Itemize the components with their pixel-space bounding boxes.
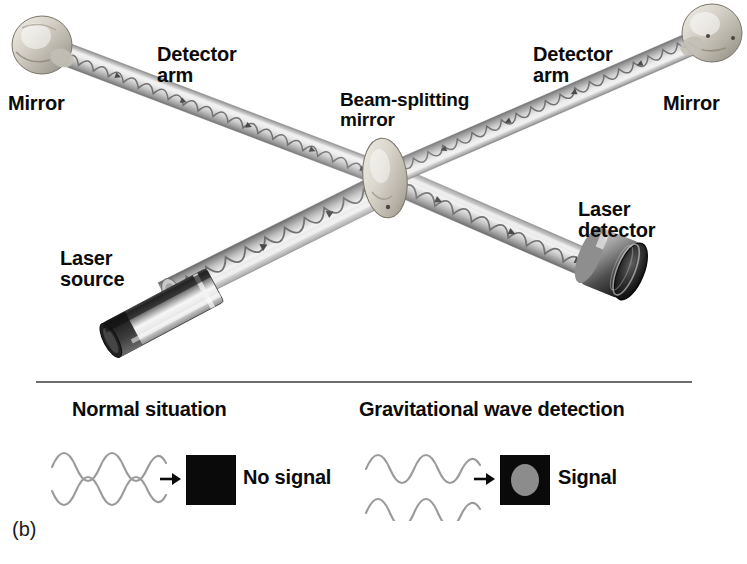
case-normal-result-label: No signal xyxy=(243,467,331,488)
case-gw-title: Gravitational wave detection xyxy=(359,399,625,420)
case-normal-indicator xyxy=(186,455,236,505)
signal-spot-icon xyxy=(511,464,539,496)
detector-arm-left-label: Detector arm xyxy=(157,44,237,87)
mirror-left-label: Mirror xyxy=(8,93,65,114)
case-gw-result-label: Signal xyxy=(558,467,617,488)
case-normal-wave-pair xyxy=(48,437,178,521)
apparatus-svg xyxy=(0,0,747,380)
comparison-panel: Normal situation No signal Gravitational… xyxy=(0,383,747,564)
case-gw-wave-pair xyxy=(362,437,492,521)
mirror-right-label: Mirror xyxy=(663,93,720,114)
case-normal-title: Normal situation xyxy=(72,399,227,420)
figure-panel-b: Mirror Detector arm Beam-splitting mirro… xyxy=(0,0,747,564)
beam-splitting-mirror-label: Beam-splitting mirror xyxy=(340,90,469,131)
figure-caption-letter: (b) xyxy=(12,518,36,541)
interferometer-apparatus-illustration: Mirror Detector arm Beam-splitting mirro… xyxy=(0,0,747,380)
laser-source-label: Laser source xyxy=(60,248,124,291)
laser-detector-label: Laser detector xyxy=(578,199,655,242)
detector-arm-right-label: Detector arm xyxy=(533,44,613,87)
case-normal-arrow-icon xyxy=(160,471,182,487)
case-gw-indicator xyxy=(500,455,550,505)
mirror-left xyxy=(12,16,76,74)
case-gw-arrow-icon xyxy=(474,471,496,487)
mirror-right xyxy=(678,4,742,62)
